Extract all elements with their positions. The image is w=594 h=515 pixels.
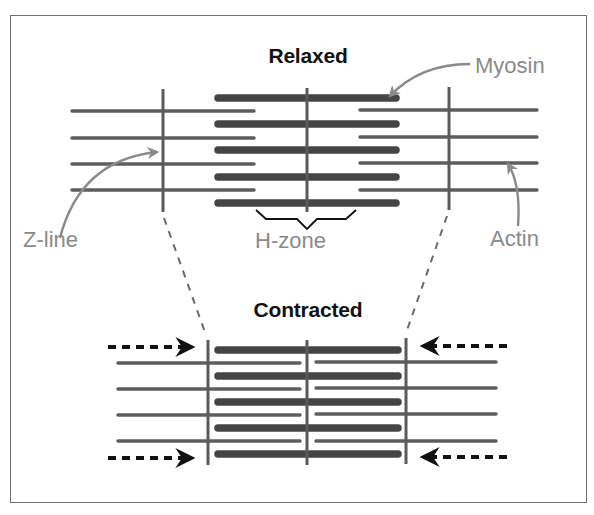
z-line-label: Z-line <box>23 227 78 253</box>
h-zone-bracket <box>256 210 356 229</box>
sarcomere-diagram: Relaxed Contracted Myosin Z-line Actin H… <box>0 0 594 515</box>
dashed-connector-line <box>164 218 206 335</box>
contracted-title: Contracted <box>254 298 363 322</box>
relaxed-title: Relaxed <box>268 44 347 68</box>
actin-label: Actin <box>490 226 539 252</box>
relaxed-sarcomere <box>72 87 537 229</box>
myosin-label: Myosin <box>475 53 545 79</box>
actin-pointer-arrow-icon <box>508 164 519 226</box>
dashed-connector-line <box>406 216 447 333</box>
h-zone-label: H-zone <box>255 228 326 254</box>
contracted-sarcomere <box>108 338 507 465</box>
myosin-pointer-arrow-icon <box>390 64 470 96</box>
